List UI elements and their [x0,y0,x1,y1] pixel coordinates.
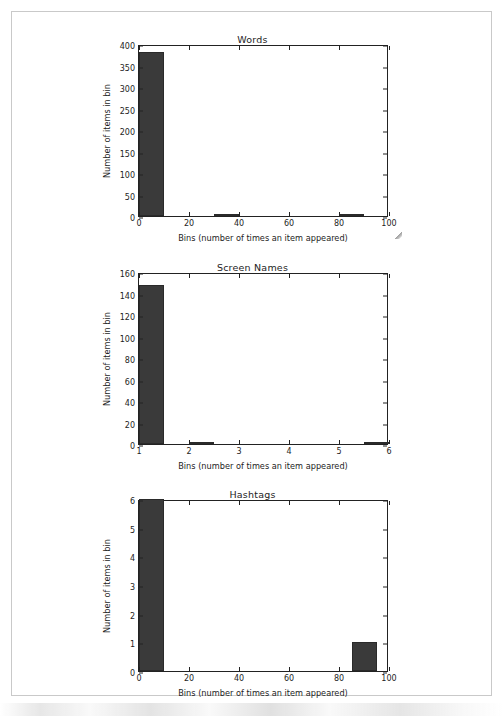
x-axis-tick-mark-top [339,46,340,50]
x-axis-tick-label: 3 [236,447,241,456]
y-axis-tick-label: 1 [130,640,135,649]
y-axis-tick-label: 60 [125,377,135,386]
x-axis-tick-label: 80 [334,674,344,683]
chart-title: Words [12,34,493,45]
document-page: Words05010015020025030035040002040608010… [11,11,492,696]
x-axis-tick-mark-top [389,46,390,50]
y-axis-tick-mark-right [383,274,387,275]
x-axis-tick-mark-top [339,274,340,278]
x-axis-tick-mark [289,212,290,216]
x-axis-tick-mark-top [289,501,290,505]
y-axis-tick-mark [139,132,143,133]
x-axis-tick-label: 6 [386,447,391,456]
y-axis-tick-mark-right [383,587,387,588]
chart-title: Screen Names [12,262,493,273]
plot-area: 0123456020406080100 [138,500,388,672]
y-axis-tick-mark-right [383,317,387,318]
x-axis-tick-mark-top [239,274,240,278]
y-axis-tick-label: 100 [120,171,135,180]
y-axis-tick-label: 5 [130,525,135,534]
y-axis-tick-mark [139,403,143,404]
histogram-bar [339,214,364,216]
x-axis-tick-mark [389,667,390,671]
x-axis-tick-label: 100 [381,674,396,683]
histogram-bar [139,499,164,671]
y-axis-tick-label: 50 [125,192,135,201]
y-axis-tick-mark [139,360,143,361]
histogram-bar [214,214,239,216]
y-axis-tick-mark [139,338,143,339]
y-axis-tick-mark [139,175,143,176]
y-axis-tick-label: 200 [120,128,135,137]
x-axis-tick-label: 40 [234,674,244,683]
x-axis-tick-mark-top [189,46,190,50]
y-axis-tick-mark [139,89,143,90]
y-axis-tick-mark-right [383,295,387,296]
y-axis-tick-label: 150 [120,149,135,158]
y-axis-tick-mark [139,424,143,425]
x-axis-tick-mark-top [389,274,390,278]
histogram-bar [139,52,164,216]
y-axis-tick-label: 0 [130,442,135,451]
y-axis-tick-mark-right [383,338,387,339]
y-axis-tick-mark [139,615,143,616]
plot-area: 020406080100120140160123456 [138,273,388,445]
x-axis-label: Bins (number of times an item appeared) [138,233,388,243]
x-axis-tick-mark-top [139,46,140,50]
x-axis-tick-mark-top [289,46,290,50]
x-axis-tick-mark-top [389,501,390,505]
x-axis-tick-mark [189,667,190,671]
y-axis-tick-mark-right [383,153,387,154]
y-axis-tick-mark-right [383,67,387,68]
x-axis-tick-mark [139,667,140,671]
y-axis-tick-mark [139,110,143,111]
y-axis-tick-mark-right [383,403,387,404]
y-axis-tick-mark [139,644,143,645]
histogram-bar [352,642,377,671]
y-axis-tick-label: 160 [120,270,135,279]
y-axis-tick-label: 140 [120,291,135,300]
y-axis-tick-mark-right [383,360,387,361]
x-axis-tick-label: 60 [284,674,294,683]
x-axis-tick-mark-top [189,501,190,505]
x-axis-tick-mark [389,440,390,444]
histogram-bar [364,442,389,444]
x-axis-tick-label: 80 [334,219,344,228]
x-axis-tick-mark [339,667,340,671]
x-axis-tick-mark-top [139,501,140,505]
y-axis-tick-mark-right [383,175,387,176]
x-axis-tick-mark [139,212,140,216]
y-axis-tick-mark-right [383,196,387,197]
y-axis-tick-label: 350 [120,63,135,72]
y-axis-tick-mark-right [383,132,387,133]
x-axis-tick-label: 40 [234,219,244,228]
y-axis-tick-label: 250 [120,106,135,115]
x-axis-tick-label: 100 [381,219,396,228]
x-axis-tick-label: 20 [184,674,194,683]
y-axis-tick-label: 80 [125,356,135,365]
x-axis-tick-label: 4 [286,447,291,456]
y-axis-label: Number of items in bin [102,539,112,633]
y-axis-tick-label: 0 [130,669,135,678]
x-axis-tick-mark [289,440,290,444]
x-axis-tick-mark [389,212,390,216]
y-axis-tick-mark [139,558,143,559]
x-axis-tick-label: 2 [186,447,191,456]
y-axis-tick-mark [139,295,143,296]
x-axis-tick-mark-top [289,274,290,278]
x-axis-tick-mark [339,440,340,444]
y-axis-tick-label: 20 [125,420,135,429]
x-axis-label: Bins (number of times an item appeared) [138,688,388,698]
x-axis-tick-mark [239,440,240,444]
y-axis-tick-label: 120 [120,313,135,322]
plot-area: 050100150200250300350400020406080100 [138,45,388,217]
x-axis-tick-label: 0 [136,219,141,228]
scan-smudge-artifact [395,232,402,239]
y-axis-tick-label: 2 [130,611,135,620]
x-axis-tick-mark [189,212,190,216]
y-axis-tick-label: 3 [130,583,135,592]
y-axis-tick-mark-right [383,110,387,111]
y-axis-tick-label: 400 [120,42,135,51]
y-axis-tick-label: 0 [130,214,135,223]
x-axis-tick-mark-top [339,501,340,505]
